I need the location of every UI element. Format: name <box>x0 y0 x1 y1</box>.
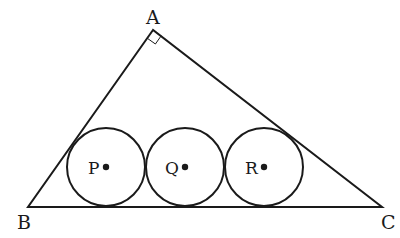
vertex-label-a: A <box>145 6 160 28</box>
center-dot-p <box>103 164 109 170</box>
center-dot-q <box>182 164 188 170</box>
circle-label-q: Q <box>165 158 179 178</box>
center-dot-r <box>261 164 267 170</box>
circle-label-p: P <box>88 158 99 178</box>
triangle-abc <box>28 30 382 207</box>
vertex-label-b: B <box>17 211 31 233</box>
circle-label-r: R <box>245 158 259 178</box>
triangle-diagram: A B C P Q R <box>0 0 400 238</box>
right-angle-marker <box>147 36 161 44</box>
vertex-label-c: C <box>381 211 396 233</box>
